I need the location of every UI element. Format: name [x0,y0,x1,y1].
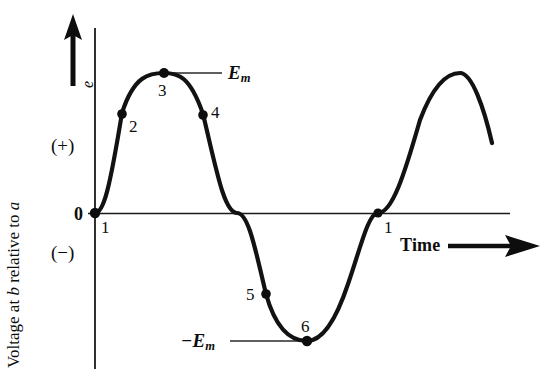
y-axis-title: Voltage at b relative to a [4,202,24,368]
data-point-label-2: 2 [129,118,138,135]
sine-waveform-curve [95,73,492,341]
negative-peak-label-text: −E [181,330,205,351]
positive-peak-label-sub: m [241,71,251,85]
data-point-1a [90,208,100,218]
data-point-label-1b: 1 [384,219,393,236]
y-direction-arrow-icon [64,14,82,86]
positive-peak-label: Em [228,63,250,84]
data-point-2 [117,109,127,119]
negative-peak-label-sub: m [205,339,215,353]
x-direction-arrow-icon [448,235,540,257]
data-point-label-6: 6 [301,318,310,335]
data-point-5 [261,289,271,299]
waveform-figure: Voltage at b relative to a e (+) 0 (−) E… [0,0,554,386]
y-axis-negative-label: (−) [51,243,74,262]
plot-canvas [0,0,554,386]
y-axis-title-a: a [4,202,23,211]
data-point-1b [373,208,382,217]
data-point-6 [302,336,312,346]
data-point-label-5: 5 [246,286,255,303]
negative-peak-label: −Em [181,331,215,352]
data-point-label-4: 4 [211,104,220,121]
y-axis-zero-label: 0 [74,205,83,223]
y-axis-title-b: b [4,287,23,296]
positive-peak-label-text: E [228,62,241,83]
y-axis-positive-label: (+) [51,136,74,155]
data-point-label-1a: 1 [101,219,110,236]
data-point-3 [159,68,169,78]
y-axis-symbol-e: e [80,81,96,88]
x-axis-label: Time [400,236,440,254]
data-point-4 [198,110,208,120]
data-point-label-3: 3 [158,82,167,99]
